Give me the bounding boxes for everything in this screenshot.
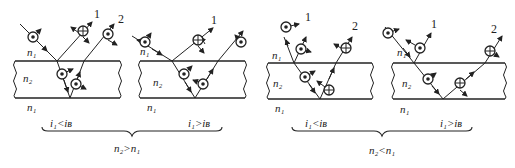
medium-label-n1-bottom: n₁	[147, 101, 157, 113]
polarization-perpendicular-dot-icon	[423, 74, 433, 84]
ray-label-2: 2	[118, 12, 124, 26]
medium-label-n1-top: n₁	[272, 49, 282, 61]
polarization-perpendicular-dot-icon	[296, 44, 306, 54]
polarization-perpendicular-dot-icon	[198, 79, 208, 89]
polarization-perpendicular-dot-icon	[57, 69, 67, 79]
condition-label-left: i₁<iʙ	[305, 117, 327, 129]
polarization-cross-icon	[193, 35, 203, 45]
panel-3	[267, 24, 374, 99]
medium-label-n2: n₂	[402, 77, 412, 89]
refracted-ray	[57, 61, 70, 98]
condition-label-left: i₁<iʙ	[50, 117, 72, 129]
medium-label-n1-bottom: n₁	[275, 102, 285, 114]
polarization-cross-icon	[485, 46, 495, 56]
polarization-perpendicular-dot-icon	[281, 22, 291, 32]
reflected-ray-1	[172, 28, 213, 61]
polarization-cross-icon	[455, 78, 465, 88]
polarization-perpendicular-dot-icon	[300, 72, 310, 82]
medium-label-n2: n₂	[23, 72, 33, 84]
polarization-perpendicular-dot-icon	[28, 32, 38, 42]
polarization-perpendicular-dot-icon	[71, 79, 81, 89]
ray-label-2: 2	[491, 22, 497, 36]
polarization-perpendicular-dot-icon	[236, 37, 246, 47]
incident-ray	[284, 37, 294, 63]
polarization-symbols	[28, 22, 495, 95]
slab-break-right	[119, 61, 122, 98]
relation-label: n₂<n₁	[369, 144, 395, 156]
medium-label-n1-bottom: n₁	[27, 101, 37, 113]
polarization-cross-icon	[78, 26, 88, 36]
internal-reflected-ray	[195, 61, 218, 98]
polarization-diagram: 1 2 1 1 2 1 2 n₁ n₂ n₁ n₁ n₂ n₁ n₁ n₂ n₁…	[0, 0, 515, 168]
polarization-perpendicular-dot-icon	[415, 43, 425, 53]
medium-label-n1-top: n₁	[140, 45, 150, 57]
polarization-perpendicular-dot-icon	[383, 28, 393, 38]
ray-label-1: 1	[305, 10, 311, 24]
ray-label-1: 1	[94, 7, 100, 21]
condition-label-right: i₁>iʙ	[188, 117, 210, 129]
ray-label-1: 1	[431, 17, 437, 31]
medium-label-n1-top: n₁	[397, 46, 407, 58]
medium-label-n2: n₂	[153, 76, 163, 88]
polarization-cross-icon	[341, 43, 351, 53]
relation-label: n₂>n₁	[114, 142, 140, 154]
slab-break-left	[14, 61, 17, 98]
ray-label-2: 2	[352, 19, 358, 33]
condition-label-right: i₁>iʙ	[440, 117, 462, 129]
polarization-perpendicular-dot-icon	[103, 29, 113, 39]
polarization-perpendicular-dot-icon	[179, 69, 189, 79]
polarization-cross-icon	[324, 85, 334, 95]
medium-label-n1-top: n₁	[27, 46, 37, 58]
medium-label-n1-bottom: n₁	[400, 103, 410, 115]
ray-label-1: 1	[211, 13, 217, 27]
medium-label-n2: n₂	[273, 77, 283, 89]
